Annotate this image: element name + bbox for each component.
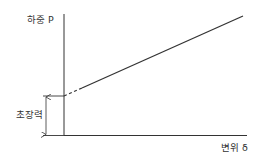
preload-label: 초장력	[16, 110, 43, 120]
x-axis-label: 변위 δ	[221, 143, 248, 153]
y-axis-label: 하중 P	[27, 15, 54, 25]
load-line	[82, 16, 243, 88]
initial-dashed-segment	[64, 88, 82, 96]
